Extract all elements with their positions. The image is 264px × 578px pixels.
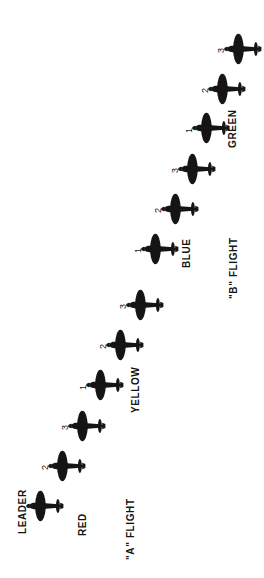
aircraft-label-blue-3: 3 (171, 168, 180, 173)
aircraft-yellow-1 (82, 362, 128, 408)
section-label-green: GREEN (228, 109, 238, 148)
fighter-plane-icon (174, 146, 220, 192)
section-label-red: RED (78, 513, 88, 536)
fighter-plane-icon (220, 26, 264, 72)
aircraft-label-blue-1: 1 (134, 248, 143, 253)
fighter-plane-icon (44, 443, 90, 489)
flight-label-a-flight: "A" FLIGHT (126, 498, 136, 560)
fighter-plane-icon (137, 226, 183, 272)
aircraft-label-red-leader: LEADER (18, 489, 28, 534)
fighter-plane-icon (204, 66, 250, 112)
aircraft-red-leader (22, 483, 68, 529)
flight-label-b-flight: "B" FLIGHT (229, 237, 239, 299)
aircraft-label-blue-2: 2 (154, 208, 163, 213)
section-label-yellow: YELLOW (131, 367, 141, 413)
aircraft-red-3 (64, 403, 110, 449)
aircraft-label-green-3: 3 (217, 48, 226, 53)
aircraft-label-yellow-2: 2 (99, 344, 108, 349)
aircraft-yellow-3 (122, 282, 168, 328)
aircraft-label-red-2: 2 (41, 465, 50, 470)
fighter-plane-icon (102, 322, 148, 368)
aircraft-green-2 (204, 66, 250, 112)
fighter-plane-icon (122, 282, 168, 328)
section-label-blue: BLUE (182, 238, 192, 268)
aircraft-label-green-2: 2 (201, 88, 210, 93)
aircraft-blue-1 (137, 226, 183, 272)
formation-diagram: LEADER 2 (0, 0, 264, 578)
aircraft-blue-3 (174, 146, 220, 192)
aircraft-red-2 (44, 443, 90, 489)
fighter-plane-icon (22, 483, 68, 529)
aircraft-label-green-1: 1 (185, 128, 194, 133)
aircraft-green-3 (220, 26, 264, 72)
fighter-plane-icon (82, 362, 128, 408)
aircraft-yellow-2 (102, 322, 148, 368)
aircraft-label-yellow-1: 1 (79, 385, 88, 390)
aircraft-blue-2 (157, 186, 203, 232)
fighter-plane-icon (157, 186, 203, 232)
fighter-plane-icon (64, 403, 110, 449)
aircraft-label-red-3: 3 (61, 425, 70, 430)
aircraft-label-yellow-3: 3 (119, 304, 128, 309)
